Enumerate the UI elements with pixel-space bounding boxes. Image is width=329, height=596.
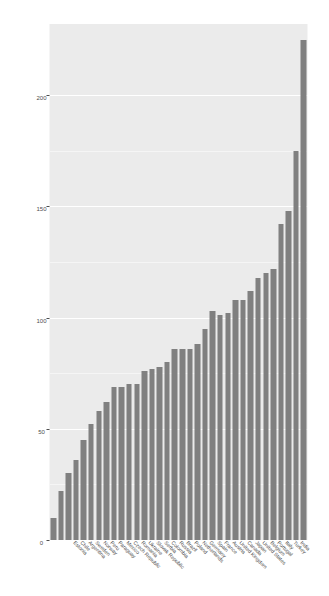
bar-row (164, 24, 169, 540)
bar-row (179, 24, 184, 540)
value-label: 200 (36, 95, 46, 101)
bar-row (255, 24, 260, 540)
bar-row (247, 24, 252, 540)
bar-row (209, 24, 214, 540)
bar-row (187, 24, 192, 540)
bar (149, 369, 154, 540)
chart-figure: IndiaTurkeyItalyPortugalBelgiumUnited St… (0, 0, 329, 596)
bar-row (141, 24, 146, 540)
value-tick (46, 540, 49, 541)
bar (118, 387, 123, 540)
value-label: 150 (36, 206, 46, 212)
bar-row (50, 24, 55, 540)
bar (172, 349, 177, 540)
value-label: 50 (38, 429, 45, 435)
category-axis-labels: IndiaTurkeyItalyPortugalBelgiumUnited St… (49, 540, 307, 596)
bar-row (194, 24, 199, 540)
bar (255, 278, 260, 540)
bar-row (58, 24, 63, 540)
bar (164, 362, 169, 540)
bar (240, 300, 245, 540)
bar-series (49, 24, 307, 540)
bar-row (240, 24, 245, 540)
bar-row (172, 24, 177, 540)
bar-row (285, 24, 290, 540)
bar (111, 387, 116, 540)
bar-row (301, 24, 306, 540)
rotated-chart-canvas: IndiaTurkeyItalyPortugalBelgiumUnited St… (0, 0, 329, 596)
bar-row (126, 24, 131, 540)
bar (278, 224, 283, 540)
bar (301, 40, 306, 540)
bar (134, 384, 139, 540)
bar (156, 367, 161, 540)
bar (247, 291, 252, 540)
bar (202, 329, 207, 540)
bar-row (217, 24, 222, 540)
bar (194, 344, 199, 540)
bar (88, 424, 93, 540)
bar-row (103, 24, 108, 540)
bar-row (96, 24, 101, 540)
bar-row (111, 24, 116, 540)
bar-row (225, 24, 230, 540)
bar (73, 460, 78, 540)
bar-row (202, 24, 207, 540)
bar (263, 273, 268, 540)
bar (232, 300, 237, 540)
plot-wrapper: IndiaTurkeyItalyPortugalBelgiumUnited St… (0, 0, 329, 596)
bar-row (149, 24, 154, 540)
bar-row (263, 24, 268, 540)
bar (187, 349, 192, 540)
bar (225, 313, 230, 540)
bar-row (232, 24, 237, 540)
bar-row (65, 24, 70, 540)
bar (65, 473, 70, 540)
bar-row (80, 24, 85, 540)
bar-row (118, 24, 123, 540)
value-axis-labels: 200150100500 (0, 24, 49, 540)
bar (103, 402, 108, 540)
bar (270, 269, 275, 540)
bar (58, 491, 63, 540)
bar (96, 411, 101, 540)
bar-row (88, 24, 93, 540)
bar (209, 311, 214, 540)
bar (80, 440, 85, 540)
bar-row (134, 24, 139, 540)
bar (141, 371, 146, 540)
bar-row (293, 24, 298, 540)
bar-row (270, 24, 275, 540)
value-tick (46, 429, 49, 430)
value-label: 0 (39, 540, 42, 546)
bar (293, 151, 298, 540)
bar (50, 518, 55, 540)
bar (217, 315, 222, 540)
bar-row (73, 24, 78, 540)
plot-panel (49, 24, 307, 540)
bar-row (156, 24, 161, 540)
bar (126, 384, 131, 540)
bar-row (278, 24, 283, 540)
bar (285, 211, 290, 540)
bar (179, 349, 184, 540)
value-label: 100 (36, 318, 46, 324)
